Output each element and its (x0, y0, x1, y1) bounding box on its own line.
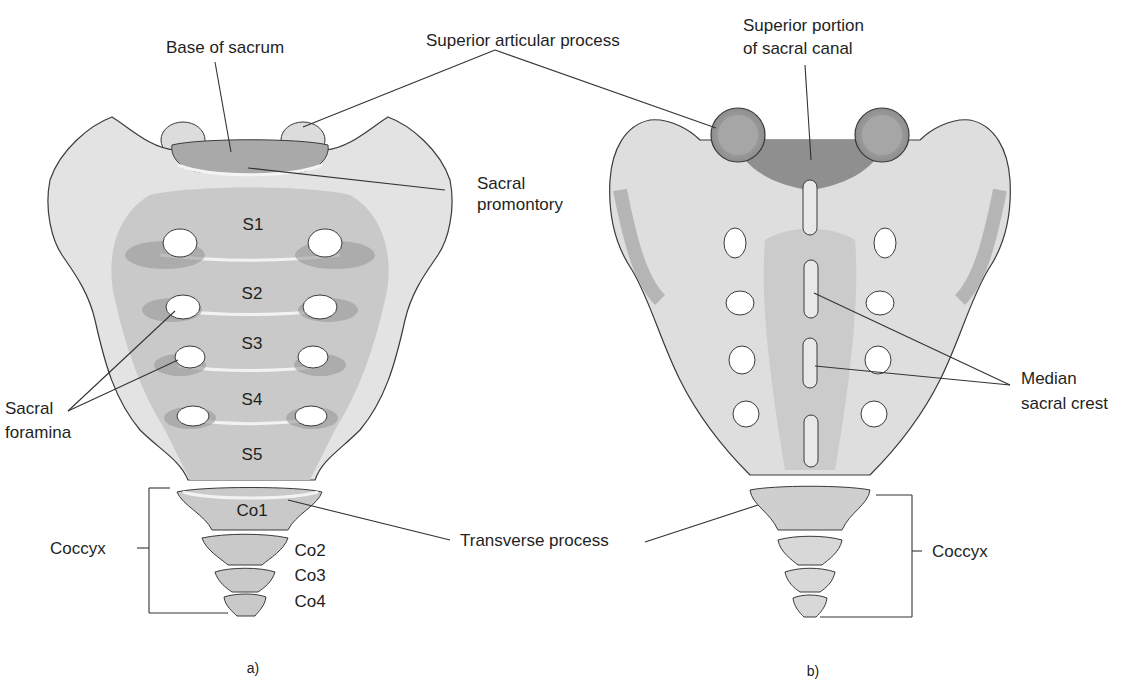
segment-s2: S2 (242, 284, 263, 304)
label-superior-portion-line1: Superior portion (743, 15, 864, 36)
label-coccyx-b: Coccyx (932, 541, 988, 562)
segment-co1: Co1 (236, 501, 267, 521)
label-superior-articular-process: Superior articular process (426, 30, 620, 51)
label-coccyx-a: Coccyx (50, 538, 106, 559)
label-sacral-promontory-line2: promontory (477, 194, 563, 215)
segment-co4: Co4 (294, 592, 325, 612)
segment-s5: S5 (242, 445, 263, 465)
label-superior-portion-line2: of sacral canal (743, 38, 853, 59)
sacrum-anterior-view (48, 117, 452, 616)
segment-co3: Co3 (294, 566, 325, 586)
caption-b: b) (807, 663, 819, 679)
label-base-of-sacrum: Base of sacrum (166, 37, 284, 58)
label-sacral-promontory-line1: Sacral (477, 173, 525, 194)
label-median-sacral-crest-line2: sacral crest (1021, 393, 1108, 414)
segment-co2: Co2 (294, 541, 325, 561)
label-transverse-process: Transverse process (460, 530, 609, 551)
segment-s1: S1 (243, 215, 264, 235)
sacrum-diagram (0, 0, 1131, 683)
segment-s4: S4 (242, 390, 263, 410)
caption-a: a) (247, 660, 259, 676)
label-sacral-foramina-line2: foramina (5, 422, 71, 443)
label-median-sacral-crest-line1: Median (1021, 368, 1077, 389)
label-sacral-foramina-line1: Sacral (5, 398, 53, 419)
segment-s3: S3 (242, 334, 263, 354)
